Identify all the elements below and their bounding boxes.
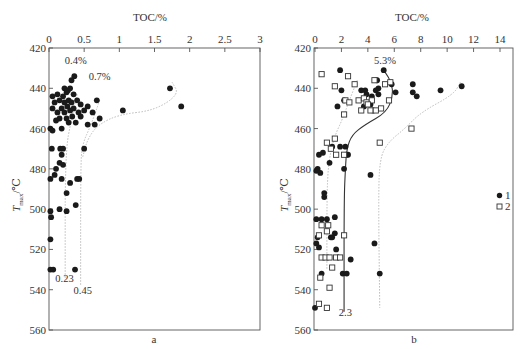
filled-circle-marker [393,89,399,95]
y-tick-label: 520 [295,243,312,255]
filled-circle-marker [81,146,87,152]
filled-circle-marker [73,202,79,208]
y-tick-label: 460 [30,123,47,135]
open-square-marker [382,82,387,87]
open-square-marker [319,72,324,77]
panel-a-x-axis-title: TOC/% [133,11,167,23]
open-square-marker [316,233,321,238]
filled-circle-marker [178,104,184,110]
open-square-marker [368,108,373,113]
filled-circle-marker [438,87,444,93]
annotation-label: 0.4% [65,55,87,66]
filled-circle-marker [332,214,338,220]
open-square-marker [345,74,350,79]
open-square-marker [359,108,364,113]
filled-circle-marker [410,81,416,87]
filled-circle-marker [316,152,322,158]
open-square-marker [318,275,323,280]
panel-a: TOC/% 00.511.522.53 42044046048050052054… [10,11,263,345]
filled-circle-marker [69,99,75,105]
filled-circle-marker [49,146,55,152]
filled-circle-marker [59,152,65,158]
open-square-marker [332,84,337,89]
filled-circle-marker [376,91,382,97]
x-tick-label: 1 [117,33,123,45]
open-square-marker [334,152,339,157]
y-tick-label: 500 [295,203,312,215]
filled-circle-marker [50,93,56,99]
filled-circle-marker [59,176,65,182]
filled-circle-marker [335,104,341,110]
y-tick-label: 460 [295,123,312,135]
dotted-trend-line [81,100,100,285]
x-tick-label: 2 [187,33,193,45]
x-tick-label: 2.5 [218,33,232,45]
open-square-marker [373,108,378,113]
panel-a-annotations: 0.4%0.7%0.230.45 [55,55,111,296]
filled-circle-marker [52,99,58,105]
open-square-marker [328,146,333,151]
filled-circle-marker [167,85,173,91]
open-square-marker [319,223,324,228]
open-square-marker [377,140,382,145]
filled-circle-marker [332,230,338,236]
filled-circle-marker [78,114,84,120]
x-tick-label: 2 [339,33,345,45]
filled-circle-marker [50,106,56,112]
open-square-marker [341,233,346,238]
y-tick-label: 420 [295,42,312,54]
panel-b-legend: 12 [497,189,511,212]
filled-circle-marker [53,166,59,172]
filled-circle-marker [321,194,327,200]
filled-circle-marker [90,110,96,116]
x-tick-label: 10 [442,33,454,45]
open-square-marker [365,102,370,107]
open-square-marker [332,136,337,141]
panel-b-data-points [312,67,464,310]
filled-circle-marker [368,172,374,178]
filled-circle-marker [64,208,70,214]
chart-figure: TOC/% 00.511.522.53 42044046048050052054… [0,0,525,349]
filled-circle-marker [55,110,61,116]
y-tick-label: 560 [295,324,312,336]
filled-circle-marker [69,114,75,120]
filled-circle-marker [59,126,65,132]
open-square-marker [341,112,346,117]
filled-circle-marker [324,216,330,222]
filled-circle-marker [344,271,350,277]
annotation-label: 2.3 [339,307,352,318]
y-tick-label: 540 [295,284,312,296]
panel-b-y-ticks: 420440460480500520540560 [295,42,319,336]
open-square-marker [327,255,332,260]
filled-circle-marker [57,206,63,212]
filled-circle-marker [85,122,91,128]
filled-circle-marker [94,97,100,103]
x-tick-label: 12 [468,33,479,45]
filled-circle-marker [92,122,98,128]
panel-a-data-points [48,73,185,272]
y-tick-label: 480 [295,163,312,175]
open-square-marker [409,126,414,131]
filled-circle-marker [71,91,77,97]
annotation-label: 0.23 [55,273,73,284]
open-square-marker [372,78,377,83]
open-square-marker [347,100,352,105]
x-tick-label: 6 [392,33,398,45]
filled-circle-marker [69,77,75,83]
filled-circle-marker [66,120,72,126]
annotation-label: 5.3% [374,55,396,66]
filled-circle-marker [48,208,54,214]
filled-circle-marker [377,271,383,277]
filled-circle-marker [316,245,322,251]
legend-square-icon [497,204,502,209]
filled-circle-marker [48,176,54,182]
filled-circle-marker [48,214,54,220]
filled-circle-marker [48,236,54,242]
dotted-trend-line [327,80,357,269]
y-tick-label: 560 [30,324,47,336]
panel-b-x-ticks: 02468101214 [312,33,506,52]
panel-a-y-ticks: 420440460480500520540560 [30,42,54,336]
filled-circle-marker [339,87,345,93]
filled-circle-marker [62,110,68,116]
x-tick-label: 0 [46,33,52,45]
